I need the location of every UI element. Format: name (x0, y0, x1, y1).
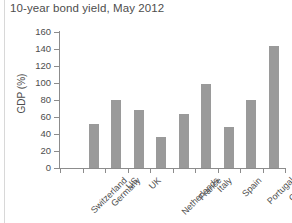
y-axis-tick (54, 32, 60, 33)
x-axis-tick (218, 168, 219, 173)
x-axis-label: Spain (240, 176, 263, 199)
bar (246, 100, 256, 168)
x-axis-tick (285, 168, 286, 173)
bar (224, 127, 234, 168)
x-axis-label: Portugal (266, 176, 292, 206)
y-axis-tick-label: 100 (35, 78, 51, 88)
y-axis-tick (54, 151, 60, 152)
x-axis-tick (263, 168, 264, 173)
bar (269, 46, 279, 168)
bar (111, 100, 121, 168)
x-axis-tick (83, 168, 84, 173)
y-axis-tick (54, 83, 60, 84)
y-axis-tick-label: 160 (35, 27, 51, 37)
bar (201, 84, 211, 168)
x-axis-tick (240, 168, 241, 173)
y-axis-title: GDP (%) (16, 64, 27, 124)
bar (179, 114, 189, 168)
y-axis-tick-label: 40 (40, 129, 51, 139)
x-axis-tick (60, 168, 61, 173)
y-axis-tick-label: 120 (35, 61, 51, 71)
x-axis-tick (128, 168, 129, 173)
x-axis-tick (173, 168, 174, 173)
y-axis-tick-label: 80 (40, 95, 51, 105)
x-axis-tick (150, 168, 151, 173)
chart-figure: 10-year bond yield, May 2012 GDP (%) 020… (0, 0, 292, 223)
bar (89, 124, 99, 168)
x-axis-label: UK (147, 176, 162, 191)
y-axis-tick-label: 140 (35, 44, 51, 54)
y-axis-tick (54, 66, 60, 67)
bar (134, 110, 144, 168)
y-axis-tick (54, 100, 60, 101)
x-axis-tick (195, 168, 196, 173)
y-axis-tick (54, 49, 60, 50)
x-axis-tick (105, 168, 106, 173)
x-axis-line (59, 168, 285, 169)
y-axis-tick (54, 117, 60, 118)
y-axis-tick-label: 60 (40, 112, 51, 122)
y-axis-tick (54, 134, 60, 135)
y-axis-tick-label: 20 (40, 146, 51, 156)
y-axis-tick-label: 0 (46, 163, 51, 173)
bar (156, 137, 166, 168)
plot-area: GDP (%) 020406080100120140160 Switzerlan… (0, 0, 292, 223)
